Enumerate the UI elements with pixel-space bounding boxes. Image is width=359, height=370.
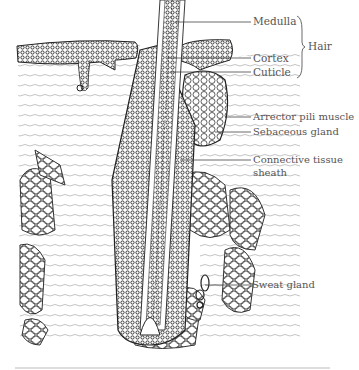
label-sweat-gland: Sweat gland: [252, 279, 315, 291]
label-medulla: Medulla: [253, 15, 296, 27]
label-arrector-pili-muscle: Arrector pili muscle: [253, 111, 354, 123]
label-cuticle: Cuticle: [253, 66, 291, 78]
label-connective-tissue: Connective tissue: [253, 154, 343, 166]
label-hair: Hair: [308, 40, 332, 52]
hair-follicle-diagram: Medulla Cortex Cuticle Hair Arrector pil…: [0, 0, 359, 370]
label-cortex: Cortex: [253, 52, 289, 64]
follicle-illustration: [0, 0, 359, 370]
label-sebaceous-gland: Sebaceous gland: [253, 126, 339, 138]
label-sheath: sheath: [253, 167, 287, 179]
